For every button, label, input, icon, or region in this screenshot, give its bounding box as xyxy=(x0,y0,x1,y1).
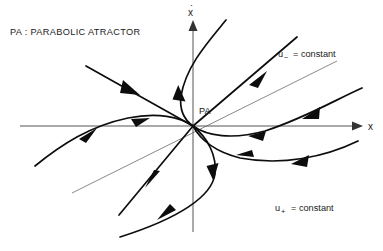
trajectory-upper-right-straight-arrow-icon xyxy=(249,71,267,88)
trajectory-upper-left-curve-arrow-icon-1 xyxy=(79,128,97,143)
iso-lower-equals-constant: = constant xyxy=(291,203,334,213)
iso-lower-label-group: u + = constant xyxy=(275,203,334,216)
iso-upper-label-group: u − = constant xyxy=(278,49,336,62)
trajectory-lower-right-curve-arrow-icon-1 xyxy=(291,155,309,167)
iso-lower-subscript: + xyxy=(281,207,285,216)
trajectory-right-rising-curve xyxy=(193,88,362,136)
trajectory-lower-left-straight-arrow-icon xyxy=(145,170,160,188)
x-axis-label: x xyxy=(368,121,373,132)
x-axis-arrow-icon xyxy=(352,122,363,131)
iso-lower-symbol: u xyxy=(275,203,280,213)
trajectory-lower-right-curve-arrow-icon-2 xyxy=(236,150,254,157)
iso-upper-equals-constant: = constant xyxy=(293,49,336,59)
trajectory-lower-right-curve xyxy=(193,126,358,161)
iso-upper-subscript: − xyxy=(284,53,288,62)
trajectory-upper-left-curve xyxy=(35,115,193,166)
trajectory-parabola-lower-arrow-icon-2 xyxy=(157,204,176,220)
phase-portrait-figure: PA : PARABOLIC ATRACTOR x · x PA u − = c… xyxy=(0,0,383,251)
trajectory-upper-right-straight xyxy=(193,37,297,126)
trajectory-parabola-lower-arrow-icon-1 xyxy=(207,163,219,181)
xdot-axis-label: x xyxy=(188,7,193,18)
phase-portrait-svg: PA : PARABOLIC ATRACTOR x · x PA u − = c… xyxy=(0,0,383,251)
trajectory-upper-left-straight-arrow-icon xyxy=(120,80,140,95)
figure-title: PA : PARABOLIC ATRACTOR xyxy=(10,27,140,37)
trajectory-parabola-lower xyxy=(120,126,215,237)
xdot-axis-arrow-icon xyxy=(189,20,198,31)
